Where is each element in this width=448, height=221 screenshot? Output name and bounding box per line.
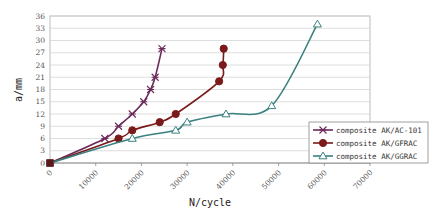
y-axis-title: a/mm [13,78,24,102]
x-tick-label: 30000 [168,168,191,191]
circle-marker [219,61,226,68]
y-tick-label: 3 [40,146,45,155]
crack-growth-chart: 0369121518212427303336 01000020000300004… [0,0,448,221]
x-tick-label: 0 [45,168,55,178]
y-tick-label: 36 [35,12,45,21]
circle-marker [220,45,227,52]
y-tick-label: 24 [35,61,45,70]
y-tick-label: 6 [40,134,45,143]
circle-marker [156,119,163,126]
legend-label: composite AK/AC-101 [336,126,422,135]
origin-marker [47,160,54,167]
y-axis-ticks: 0369121518212427303336 [35,12,45,168]
x-tick-label: 10000 [77,168,100,191]
legend-circle-icon [319,139,326,146]
y-tick-label: 0 [40,159,45,168]
y-tick-label: 18 [35,85,45,94]
y-tick-label: 27 [35,48,45,57]
circle-marker [172,110,179,117]
circle-marker [216,78,223,85]
x-tick-label: 70000 [351,168,374,191]
y-tick-label: 33 [35,24,45,33]
x-tick-label: 40000 [214,168,237,191]
y-tick-label: 15 [35,97,45,106]
x-axis-title: N/cycle [189,197,231,208]
y-tick-label: 9 [40,122,45,131]
circle-marker [129,127,136,134]
x-tick-label: 50000 [260,168,283,191]
y-tick-label: 30 [35,36,45,45]
y-tick-label: 21 [35,73,45,82]
legend-label: composite AK/GFRAC [336,139,417,148]
x-tick-label: 20000 [123,168,146,191]
y-tick-label: 12 [35,110,45,119]
x-tick-label: 60000 [305,168,328,191]
legend-label: composite AK/GGRAC [336,152,417,161]
legend: composite AK/AC-101composite AK/GFRACcom… [309,122,428,163]
x-axis-ticks: 010000200003000040000500006000070000 [45,163,375,191]
